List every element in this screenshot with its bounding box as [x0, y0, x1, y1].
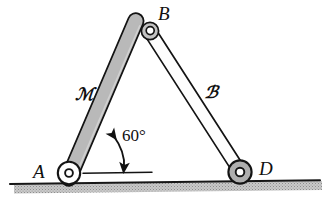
joint-label-b: B [158, 4, 170, 23]
link-label-b: ℬ [204, 84, 219, 101]
pinned-support-d-hole [236, 168, 245, 177]
joint-label-a: A [33, 162, 45, 181]
pin-joint-b [141, 22, 158, 39]
link-a-bar [61, 13, 144, 186]
ground [10, 180, 322, 193]
pinned-support-d [228, 160, 251, 183]
link-a-body [61, 13, 144, 186]
horizontal-reference-line [83, 172, 152, 173]
linkage-figure: A B D ℳ ℬ 60° [0, 0, 329, 199]
link-b-body [143, 25, 246, 178]
linkage-diagram-canvas [0, 0, 329, 199]
angle-label-60: 60° [122, 127, 146, 144]
link-b-bar [143, 25, 246, 178]
link-label-a: ℳ [75, 86, 95, 103]
joint-label-d: D [259, 159, 273, 178]
pinned-support-a [58, 162, 80, 184]
pinned-support-a-hole [65, 169, 73, 177]
pin-joint-b-hole [146, 27, 154, 35]
